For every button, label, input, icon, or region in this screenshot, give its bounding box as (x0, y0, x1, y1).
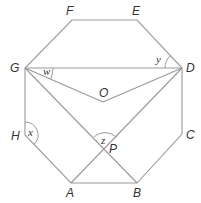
label-vertex-b: B (133, 186, 141, 200)
octagon-diagram: F E G D H C A B O P w y x z (0, 0, 201, 203)
label-vertex-d: D (186, 61, 195, 75)
label-angle-z: z (100, 134, 106, 146)
label-vertex-h: H (11, 129, 20, 143)
label-point-o: O (99, 86, 108, 100)
label-vertex-g: G (10, 61, 19, 75)
segment-go (25, 68, 103, 102)
segment-od (103, 68, 182, 102)
angle-arc-w (51, 68, 53, 79)
label-vertex-a: A (65, 186, 74, 200)
label-angle-x: x (27, 126, 33, 138)
segment-gb (25, 68, 137, 183)
label-point-p: P (109, 142, 117, 156)
label-vertex-f: F (66, 4, 74, 18)
label-angle-y: y (155, 53, 161, 65)
segment-da (71, 68, 182, 183)
label-vertex-e: E (132, 4, 141, 18)
angle-arc-y (165, 56, 170, 68)
label-vertex-c: C (186, 128, 195, 142)
label-angle-w: w (43, 65, 51, 77)
